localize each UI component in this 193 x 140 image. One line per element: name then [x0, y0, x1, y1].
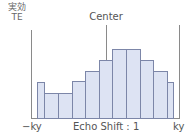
right-axis	[179, 25, 180, 119]
bar	[167, 82, 174, 119]
bar	[85, 71, 100, 119]
bar	[112, 49, 127, 119]
bar	[72, 81, 86, 119]
center-label: Center	[86, 11, 126, 22]
y-axis-label-line2: TE	[4, 12, 30, 22]
left-axis	[31, 30, 32, 119]
bar	[153, 71, 168, 119]
y-axis-label: 実効 TE	[4, 2, 30, 22]
bar	[58, 93, 73, 119]
bar	[44, 93, 59, 119]
x-tick-left: −ky	[22, 121, 42, 132]
bar	[99, 60, 113, 119]
x-axis-label: Echo Shift : 1	[73, 121, 139, 132]
bar	[126, 49, 141, 119]
bar	[140, 60, 154, 119]
x-tick-right: ky	[173, 121, 184, 132]
y-axis-label-line1: 実効	[4, 2, 30, 12]
